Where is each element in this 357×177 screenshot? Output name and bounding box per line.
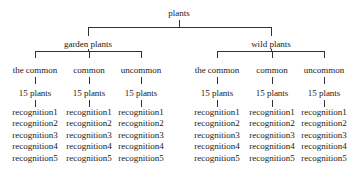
category-stem (35, 77, 36, 84)
category-stem (272, 77, 273, 84)
count-node: 15 plants (308, 88, 341, 99)
list-item: recognition3 (301, 130, 347, 141)
category-node: uncommon (121, 65, 162, 76)
list-item: recognition2 (194, 118, 240, 129)
garden-drop-3 (141, 51, 142, 58)
category-stem (141, 77, 142, 84)
category-node: the common (13, 65, 58, 76)
recognition-list: recognition1 recognition2 recognition3 r… (249, 107, 295, 164)
list-item: recognition2 (301, 118, 347, 129)
count-node: 15 plants (201, 88, 234, 99)
category-stem (89, 77, 90, 84)
garden-drop-2 (89, 51, 90, 58)
list-item: recognition5 (194, 153, 240, 164)
garden-drop-1 (35, 51, 36, 58)
list-item: recognition1 (194, 107, 240, 118)
count-node: 15 plants (73, 88, 106, 99)
recognition-list: recognition1 recognition2 recognition3 r… (118, 107, 164, 164)
category-node: the common (195, 65, 240, 76)
list-item: recognition4 (66, 141, 112, 152)
recognition-list: recognition1 recognition2 recognition3 r… (301, 107, 347, 164)
root-stem (179, 20, 180, 27)
list-item: recognition3 (249, 130, 295, 141)
list-item: recognition1 (118, 107, 164, 118)
count-stem (141, 100, 142, 107)
list-item: recognition5 (118, 153, 164, 164)
count-stem (272, 100, 273, 107)
list-item: recognition3 (12, 130, 58, 141)
wild-drop-3 (324, 51, 325, 58)
list-item: recognition4 (12, 141, 58, 152)
root-bracket (88, 27, 272, 28)
list-item: recognition4 (194, 141, 240, 152)
root-node: plants (168, 8, 190, 19)
list-item: recognition2 (12, 118, 58, 129)
category-node: common (256, 65, 288, 76)
category-stem (217, 77, 218, 84)
list-item: recognition3 (194, 130, 240, 141)
count-stem (35, 100, 36, 107)
list-item: recognition4 (118, 141, 164, 152)
list-item: recognition2 (118, 118, 164, 129)
list-item: recognition4 (249, 141, 295, 152)
category-stem (324, 77, 325, 84)
recognition-list: recognition1 recognition2 recognition3 r… (66, 107, 112, 164)
list-item: recognition3 (66, 130, 112, 141)
list-item: recognition5 (66, 153, 112, 164)
list-item: recognition2 (249, 118, 295, 129)
garden-drop (88, 27, 89, 36)
list-item: recognition5 (301, 153, 347, 164)
count-stem (89, 100, 90, 107)
wild-drop-1 (217, 51, 218, 58)
wild-drop-2 (272, 51, 273, 58)
list-item: recognition1 (12, 107, 58, 118)
list-item: recognition1 (249, 107, 295, 118)
wild-drop (271, 27, 272, 36)
category-node: uncommon (304, 65, 345, 76)
category-node: common (73, 65, 105, 76)
count-stem (217, 100, 218, 107)
list-item: recognition1 (301, 107, 347, 118)
list-item: recognition5 (12, 153, 58, 164)
count-node: 15 plants (125, 88, 158, 99)
count-node: 15 plants (19, 88, 52, 99)
count-node: 15 plants (256, 88, 289, 99)
count-stem (324, 100, 325, 107)
list-item: recognition5 (249, 153, 295, 164)
list-item: recognition3 (118, 130, 164, 141)
recognition-list: recognition1 recognition2 recognition3 r… (194, 107, 240, 164)
list-item: recognition2 (66, 118, 112, 129)
recognition-list: recognition1 recognition2 recognition3 r… (12, 107, 58, 164)
list-item: recognition4 (301, 141, 347, 152)
list-item: recognition1 (66, 107, 112, 118)
